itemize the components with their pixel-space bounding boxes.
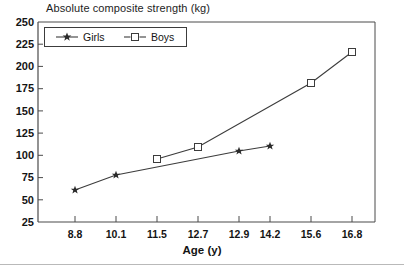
legend-entry-boys: Boys: [123, 28, 174, 46]
y-tick-label-175: 175: [0, 82, 34, 94]
y-axis-ticks: [38, 44, 43, 200]
legend-label-girls: Girls: [83, 32, 105, 43]
y-tick-label-50: 50: [0, 194, 34, 206]
x-tick-label-16-8: 16.8: [342, 228, 362, 240]
series-markers-girls: [71, 142, 274, 194]
open-square-marker-icon: [123, 30, 147, 44]
y-tick-label-225: 225: [0, 38, 34, 50]
x-tick-label-11-5: 11.5: [147, 228, 167, 240]
x-axis-title: Age (y): [0, 244, 404, 256]
x-axis-ticks: [75, 216, 352, 222]
x-tick-label-15-6: 15.6: [301, 228, 321, 240]
x-tick-label-12-7: 12.7: [188, 228, 208, 240]
x-tick-label-14-2: 14.2: [260, 228, 280, 240]
y-tick-label-125: 125: [0, 127, 34, 139]
legend-label-boys: Boys: [151, 32, 174, 43]
y-tick-label-75: 75: [0, 171, 34, 183]
footer-divider: [0, 264, 404, 265]
x-tick-label-12-9: 12.9: [229, 228, 249, 240]
plot-frame: [38, 22, 375, 222]
legend-entry-girls: Girls: [55, 28, 105, 46]
chart-figure: Absolute composite strength (kg): [0, 0, 404, 272]
y-tick-label-150: 150: [0, 105, 34, 117]
star-marker-icon: [55, 30, 79, 44]
x-tick-label-8-8: 8.8: [68, 228, 83, 240]
y-tick-label-25: 25: [0, 216, 34, 228]
y-tick-label-100: 100: [0, 149, 34, 161]
chart-legend: Girls Boys: [44, 27, 187, 47]
y-tick-label-200: 200: [0, 60, 34, 72]
x-tick-label-10-1: 10.1: [106, 228, 126, 240]
y-tick-label-250: 250: [0, 16, 34, 28]
series-line-boys: [157, 52, 352, 159]
series-markers-boys: [154, 49, 356, 163]
